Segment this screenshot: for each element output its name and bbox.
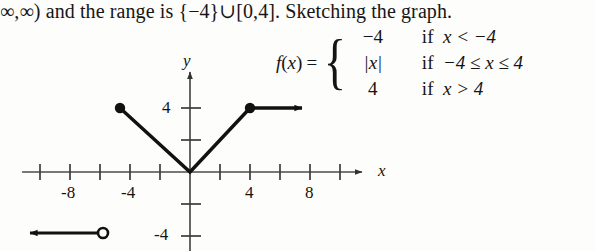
case-2-condition: if −4 ≤ x ≤ 4	[396, 52, 523, 74]
x-tick-label-neg4: -4	[121, 183, 135, 203]
case-3-if: if	[422, 78, 434, 99]
case-3-inequality: x > 4	[443, 78, 483, 99]
y-tick-label-neg4: -4	[154, 225, 168, 245]
prose-line: ∞,∞) and the range is {−4}∪[0,4]. Sketch…	[0, 0, 595, 24]
textbook-figure-page: ∞,∞) and the range is {−4}∪[0,4]. Sketch…	[0, 0, 595, 251]
case-1-inequality: x < −4	[443, 26, 496, 47]
y-tick-label-pos4: 4	[162, 98, 171, 118]
x-tick-label-pos4: 4	[245, 183, 254, 203]
open-point-endpoint	[98, 228, 108, 238]
case-1-condition: if x < −4	[396, 26, 523, 48]
x-axis-label: x	[378, 161, 386, 181]
case-2-inequality: −4 ≤ x ≤ 4	[443, 52, 523, 73]
case-3-condition: if x > 4	[396, 78, 523, 100]
y-axis-label: y	[183, 51, 191, 71]
x-tick-label-neg8: -8	[61, 183, 75, 203]
graph-canvas	[0, 30, 400, 251]
closed-point-right	[245, 103, 255, 113]
closed-point-left	[115, 103, 125, 113]
function-graph: x y -8 -4 4 8 4 -4	[0, 30, 400, 251]
case-2-if: if	[422, 52, 434, 73]
x-tick-label-pos8: 8	[305, 183, 314, 203]
case-1-if: if	[422, 26, 434, 47]
